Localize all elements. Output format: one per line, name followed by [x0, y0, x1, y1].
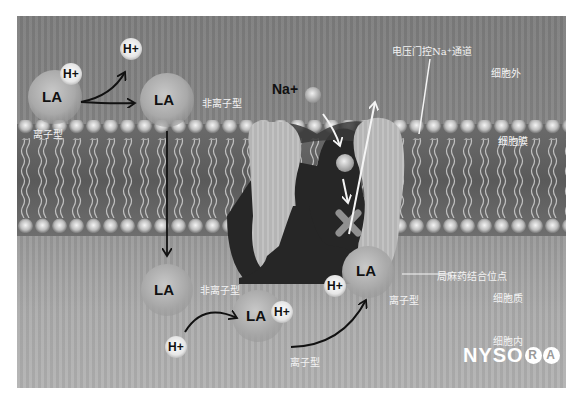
la-bound-label: LA: [356, 262, 376, 279]
la-ionized-top-label: LA: [42, 88, 62, 105]
diagram-panel: LA LA LA LA LA H+ H+ H+ H+ H+ Na+ 离子型 非离…: [17, 16, 566, 388]
binding-arrow: [291, 300, 366, 347]
sodium-label: Na+: [272, 81, 298, 97]
sodium-ion: [305, 87, 321, 103]
proton-label-3: H+: [168, 340, 184, 354]
nonionized-label-top: 非离子型: [202, 95, 242, 110]
sodium-ion-in-channel: [336, 154, 354, 172]
proton-label-4: H+: [274, 305, 290, 319]
nonionized-label-bottom: 非离子型: [200, 282, 240, 297]
extracellular-label: 细胞外: [491, 65, 521, 80]
ionized-label-top: 离子型: [33, 126, 63, 141]
proton-label-1: H+: [63, 67, 79, 81]
proton-label-2: H+: [123, 42, 139, 56]
ionized-label-channel: 离子型: [389, 292, 419, 307]
ionized-label-bottom: 离子型: [290, 354, 320, 369]
nysora-logo: NYSO R A: [463, 344, 560, 367]
proton-label-5: H+: [327, 279, 343, 293]
logo-circle-a: A: [543, 347, 560, 364]
diagram-graphics: [17, 16, 566, 388]
la-nonionized-top-label: LA: [154, 91, 174, 108]
cytoplasm-label: 细胞质: [493, 290, 523, 305]
proton-release-arrow: [81, 72, 125, 102]
la-ionized-bottom-label: LA: [246, 307, 266, 324]
protonation-arrow: [185, 312, 237, 332]
ionized-to-nonionized-arrow: [81, 102, 135, 103]
logo-circle-r: R: [525, 347, 542, 364]
channel-label: 电压门控Na⁺通道: [392, 43, 472, 58]
membrane-label: 细胞膜: [498, 133, 528, 148]
binding-site-label: 局麻药结合位点: [437, 268, 507, 283]
logo-text: NYSO: [463, 344, 524, 367]
la-nonionized-bottom-label: LA: [154, 281, 174, 298]
